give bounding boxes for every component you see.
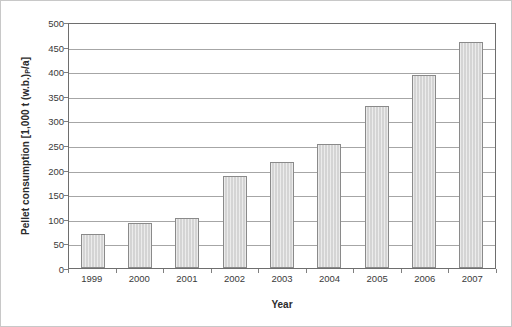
x-axis-tick-mark bbox=[353, 269, 354, 273]
x-axis-tick-mark bbox=[306, 269, 307, 273]
bar bbox=[128, 223, 152, 268]
y-axis-tick-mark bbox=[64, 146, 68, 147]
bar-slot bbox=[306, 24, 353, 268]
bar-slot bbox=[211, 24, 258, 268]
y-axis-tick-label: 0 bbox=[30, 264, 64, 275]
x-axis-tick-mark bbox=[68, 269, 69, 273]
y-axis-tick-mark bbox=[64, 220, 68, 221]
bar bbox=[459, 42, 483, 268]
bar bbox=[81, 234, 105, 268]
y-axis-title-tail: /a] bbox=[20, 57, 31, 69]
x-axis-tick-mark bbox=[116, 269, 117, 273]
x-axis-tick-mark bbox=[163, 269, 164, 273]
bar-slot bbox=[116, 24, 163, 268]
y-axis-title-main: Pellet consumption [1,000 t (w.b.) bbox=[20, 74, 31, 235]
y-axis-tick-label: 50 bbox=[30, 239, 64, 250]
x-axis-tick-label: 2001 bbox=[163, 273, 211, 289]
bar-slot bbox=[448, 24, 495, 268]
y-axis-tick-mark bbox=[64, 121, 68, 122]
x-axis-tick-label: 2002 bbox=[211, 273, 259, 289]
x-axis-tick-label: 2000 bbox=[116, 273, 164, 289]
x-axis-tick-mark bbox=[258, 269, 259, 273]
y-axis-tick-labels: 050100150200250300350400450500 bbox=[30, 1, 64, 327]
x-axis-tick-mark bbox=[448, 269, 449, 273]
bar-slot bbox=[164, 24, 211, 268]
plot-area bbox=[68, 23, 496, 269]
y-axis-tick-label: 100 bbox=[30, 214, 64, 225]
y-axis-tick-label: 350 bbox=[30, 91, 64, 102]
bar-slot bbox=[353, 24, 400, 268]
x-axis-tick-label: 2006 bbox=[401, 273, 449, 289]
y-axis-tick-label: 250 bbox=[30, 141, 64, 152]
x-axis-tick-label: 2003 bbox=[258, 273, 306, 289]
x-axis-tick-label: 2004 bbox=[306, 273, 354, 289]
bar-series bbox=[69, 24, 495, 268]
bar bbox=[317, 144, 341, 268]
y-axis-tick-mark bbox=[64, 23, 68, 24]
x-axis-tick-label: 2005 bbox=[353, 273, 401, 289]
x-axis-tick-mark bbox=[496, 269, 497, 273]
bar-slot bbox=[69, 24, 116, 268]
y-axis-tick-label: 400 bbox=[30, 67, 64, 78]
y-axis-tick-label: 200 bbox=[30, 165, 64, 176]
bar bbox=[365, 106, 389, 268]
y-axis-tick-label: 450 bbox=[30, 42, 64, 53]
x-axis-title: Year bbox=[68, 299, 496, 310]
y-axis-tick-label: 150 bbox=[30, 190, 64, 201]
y-axis-tick-mark bbox=[64, 48, 68, 49]
y-axis-tick-label: 300 bbox=[30, 116, 64, 127]
bar-slot bbox=[400, 24, 447, 268]
y-axis-tick-mark bbox=[64, 171, 68, 172]
y-axis-tick-label: 500 bbox=[30, 18, 64, 29]
bar bbox=[223, 176, 247, 268]
y-axis-tick-mark bbox=[64, 195, 68, 196]
bar bbox=[175, 218, 199, 268]
x-axis-tick-label: 2007 bbox=[449, 273, 497, 289]
bar bbox=[270, 162, 294, 268]
x-axis-tick-label: 1999 bbox=[68, 273, 116, 289]
x-axis-tick-mark bbox=[401, 269, 402, 273]
bar-slot bbox=[258, 24, 305, 268]
x-axis-tick-labels: 199920002001200220032004200520062007 bbox=[68, 273, 496, 289]
bar-chart-figure: Pellet consumption [1,000 t (w.b.)P/a] 0… bbox=[0, 0, 512, 327]
bar bbox=[412, 75, 436, 268]
y-axis-tick-mark bbox=[64, 244, 68, 245]
y-axis-tick-mark bbox=[64, 97, 68, 98]
y-axis-tick-mark bbox=[64, 72, 68, 73]
x-axis-tick-mark bbox=[211, 269, 212, 273]
